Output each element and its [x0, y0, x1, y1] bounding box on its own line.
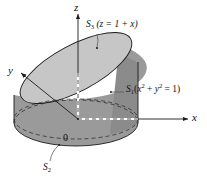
surface-label-S1-plus: +: [145, 84, 155, 94]
marker-dot-S1: [110, 91, 112, 93]
math-figure-cylinder-cut-by-plane: z y x 0 S3 (z = 1 + x) S1(x2 + y2 = 1) S…: [0, 0, 207, 184]
x-axis-label: x: [192, 112, 197, 123]
origin-point: [77, 118, 79, 120]
y-axis-label: y: [8, 65, 13, 76]
marker-dot-S2: [58, 144, 60, 146]
surface-label-S3-subscript: 3: [91, 23, 94, 30]
surface-label-S1-exponent-y: 2: [159, 82, 162, 89]
surface-label-S1-subscript: 1: [131, 88, 134, 95]
leader-line-S2: [50, 146, 58, 161]
surface-label-S2-subscript: 2: [48, 166, 51, 173]
z-axis-label: z: [74, 2, 78, 13]
surface-label-S1-equals: = 1): [162, 84, 180, 94]
origin-label: 0: [63, 133, 68, 143]
surface-label-S2: S2: [43, 163, 51, 173]
surface-label-S3: S3 (z = 1 + x): [86, 20, 138, 30]
surface-label-S1: S1(x2 + y2 = 1): [126, 85, 180, 95]
surface-label-S3-equation: (z = 1 + x): [94, 19, 138, 29]
surface-label-S1-exponent-x: 2: [141, 82, 144, 89]
marker-dot-S3: [96, 47, 98, 49]
